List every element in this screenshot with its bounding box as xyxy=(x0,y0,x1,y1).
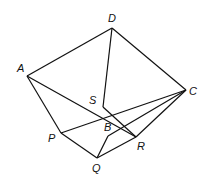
vertex-label-D: D xyxy=(108,12,116,24)
vertex-label-C: C xyxy=(189,85,197,97)
geometry-diagram: DACSBPQR xyxy=(0,0,207,184)
edge-AD xyxy=(27,28,112,76)
vertex-label-R: R xyxy=(137,140,145,152)
vertex-label-A: A xyxy=(16,62,24,74)
edge-PQ xyxy=(61,133,97,158)
edge-AP xyxy=(27,76,61,133)
vertex-label-B: B xyxy=(104,121,111,133)
vertex-label-S: S xyxy=(89,94,97,106)
vertex-label-Q: Q xyxy=(92,162,101,174)
edge-AR xyxy=(27,76,136,137)
edge-DS xyxy=(103,28,112,107)
edge-CR xyxy=(136,90,186,137)
edge-DC xyxy=(112,28,186,90)
vertex-label-P: P xyxy=(48,132,56,144)
